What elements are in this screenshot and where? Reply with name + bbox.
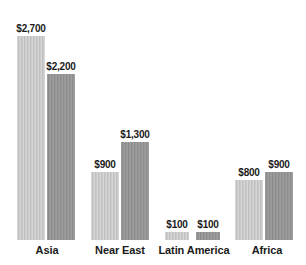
category-axis: Asia Near East Latin America Africa bbox=[0, 244, 306, 264]
bar-value-label: $1,300 bbox=[120, 129, 149, 140]
bar-chart: $2,700 $2,200 $900 $1,300 $100 $100 $800 bbox=[0, 0, 306, 265]
category-label-near-east: Near East bbox=[84, 244, 156, 257]
bar-value-label: $100 bbox=[166, 219, 187, 230]
bar-near-east-light: $900 bbox=[91, 172, 119, 240]
bar-rect bbox=[121, 142, 149, 240]
bar-africa-dark: $900 bbox=[265, 172, 293, 240]
bar-value-label: $100 bbox=[197, 219, 218, 230]
bar-asia-dark: $2,200 bbox=[47, 74, 75, 240]
bar-value-label: $2,200 bbox=[46, 61, 75, 72]
category-label-asia: Asia bbox=[12, 244, 82, 257]
bar-latin-america-light: $100 bbox=[165, 232, 189, 240]
bar-asia-light: $2,700 bbox=[17, 36, 45, 240]
category-label-latin-america: Latin America bbox=[153, 244, 235, 257]
bar-near-east-dark: $1,300 bbox=[121, 142, 149, 240]
bar-rect bbox=[165, 232, 189, 240]
bar-rect bbox=[47, 74, 75, 240]
category-label-africa: Africa bbox=[232, 244, 302, 257]
bar-rect bbox=[196, 232, 220, 240]
bar-value-label: $900 bbox=[268, 159, 289, 170]
bar-value-label: $800 bbox=[238, 167, 259, 178]
bar-rect bbox=[235, 180, 263, 240]
bar-rect bbox=[265, 172, 293, 240]
bar-value-label: $2,700 bbox=[16, 23, 45, 34]
bar-rect bbox=[91, 172, 119, 240]
plot-area: $2,700 $2,200 $900 $1,300 $100 $100 $800 bbox=[0, 0, 306, 241]
bar-value-label: $900 bbox=[94, 159, 115, 170]
bar-africa-light: $800 bbox=[235, 180, 263, 240]
bar-rect bbox=[17, 36, 45, 240]
bar-latin-america-dark: $100 bbox=[196, 232, 220, 240]
